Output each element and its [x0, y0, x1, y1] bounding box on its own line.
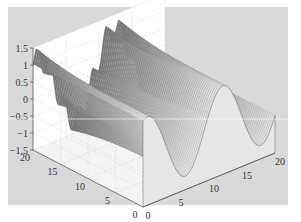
surface-plot-figure: −1.5−1−0.500.511.5 05101520 05101520 — [0, 0, 301, 222]
z-tick-label: 0 — [23, 94, 28, 105]
z-tick-label: −1 — [17, 128, 28, 139]
x-tick-label: 20 — [275, 156, 285, 167]
z-tick-label: 1 — [23, 60, 28, 71]
z-tick-label: −0.5 — [10, 111, 28, 122]
y-tick-label: 15 — [48, 166, 58, 177]
y-tick-label: 10 — [75, 181, 85, 192]
x-tick-label: 5 — [179, 197, 184, 208]
z-tick-label: 0.5 — [16, 77, 29, 88]
x-tick-label: 10 — [209, 183, 219, 194]
x-tick-label: 15 — [242, 170, 252, 181]
y-tick-label: 5 — [105, 195, 110, 206]
z-tick-label: 1.5 — [16, 43, 29, 54]
y-tick-label: 20 — [20, 152, 30, 163]
y-tick-label: 0 — [133, 209, 138, 220]
x-tick-label: 0 — [146, 210, 151, 221]
